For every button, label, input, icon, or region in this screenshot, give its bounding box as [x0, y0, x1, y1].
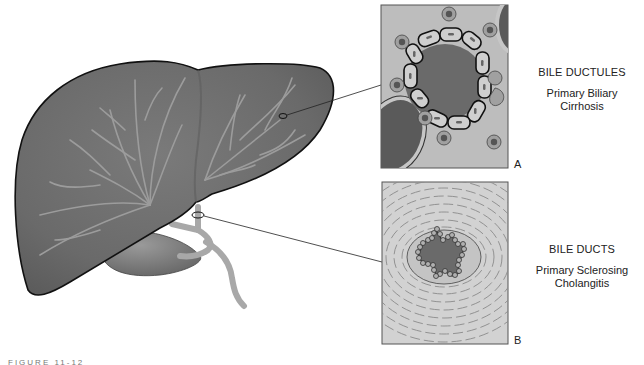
panel-a-letter: A	[514, 158, 521, 170]
panel-a-title: BILE DUCTULES	[520, 66, 644, 78]
leader-line-b	[204, 216, 382, 262]
panel-a-illustration	[353, 0, 533, 183]
panel-a-label: BILE DUCTULES Primary Biliary Cirrhosis	[520, 66, 644, 113]
panel-b-illustration	[346, 172, 542, 344]
panel-b-letter: B	[514, 334, 521, 346]
panel-b-subtitle: Primary Sclerosing Cholangitis	[520, 264, 644, 290]
panel-b-label: BILE DUCTS Primary Sclerosing Cholangiti…	[520, 243, 644, 290]
bile-duct-tree	[172, 207, 244, 306]
figure-caption: FIGURE 11-12	[8, 358, 84, 365]
liver-diagram	[0, 0, 644, 365]
panel-a-subtitle: Primary Biliary Cirrhosis	[520, 87, 644, 113]
figure: BILE DUCTULES Primary Biliary Cirrhosis …	[0, 0, 644, 365]
panel-b-title: BILE DUCTS	[520, 243, 644, 255]
